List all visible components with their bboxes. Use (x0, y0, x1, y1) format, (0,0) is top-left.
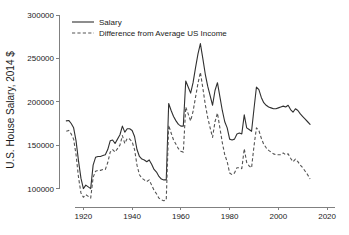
chart-legend: SalaryDifference from Average US Income (72, 18, 227, 38)
x-tick-label: 1940 (123, 212, 141, 221)
y-axis: 100000150000200000250000300000 (27, 11, 59, 194)
x-axis: 192019401960198020002020 (74, 207, 336, 221)
series-group (66, 44, 310, 201)
x-tick-group: 192019401960198020002020 (74, 207, 336, 221)
legend-label: Salary (99, 18, 122, 27)
series-line-salary (66, 44, 310, 189)
x-tick-label: 1960 (172, 212, 190, 221)
y-tick-label: 100000 (27, 185, 54, 194)
y-axis-title: U.S. House Salary, 2014 $ (5, 51, 16, 169)
y-tick-label: 300000 (27, 11, 54, 20)
y-tick-label: 250000 (27, 54, 54, 63)
x-tick-label: 2020 (318, 212, 336, 221)
x-tick-label: 1920 (74, 212, 92, 221)
x-tick-label: 2000 (269, 212, 287, 221)
y-tick-group: 100000150000200000250000300000 (27, 11, 59, 194)
legend-label: Difference from Average US Income (99, 29, 227, 38)
line-chart: 100000150000200000250000300000 192019401… (0, 0, 349, 235)
y-tick-label: 150000 (27, 141, 54, 150)
series-line-difference (66, 72, 310, 200)
chart-container: 100000150000200000250000300000 192019401… (0, 0, 349, 235)
y-tick-label: 200000 (27, 98, 54, 107)
x-tick-label: 1980 (221, 212, 239, 221)
